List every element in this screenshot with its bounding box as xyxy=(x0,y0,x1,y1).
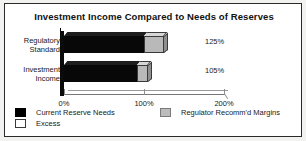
x-tick-0 xyxy=(64,89,65,95)
bar-segment-margins xyxy=(137,65,148,82)
category-label-line2: Income xyxy=(0,75,60,84)
plot-area: Regulatory Standard Investment Income 0%… xyxy=(5,28,303,100)
legend-label-excess: Excess xyxy=(36,119,60,128)
category-label-line2: Standard xyxy=(0,46,60,55)
bar-segment-margins-side xyxy=(148,62,152,82)
x-tick-label-2: 200% xyxy=(204,99,244,108)
x-tick-label-0: 0% xyxy=(44,99,84,108)
bar-segment-reserve-needs xyxy=(64,65,137,82)
x-tick-label-1: 100% xyxy=(124,99,164,108)
category-label-investment-income: Investment Income xyxy=(0,66,60,83)
bar-segment-reserve-needs xyxy=(64,36,144,53)
category-label-regulatory-standard: Regulatory Standard xyxy=(0,37,60,54)
bar-segment-margins-side xyxy=(164,33,168,53)
chart-outer-frame: Investment Income Compared to Needs of R… xyxy=(0,0,306,141)
data-label-regulatory-standard: 125% xyxy=(205,37,224,46)
chart-title: Investment Income Compared to Needs of R… xyxy=(5,11,303,22)
bar-segment-margins xyxy=(144,36,164,53)
legend-label-current-reserve-needs: Current Reserve Needs xyxy=(36,108,115,117)
chart-legend: Current Reserve Needs Excess Regulator R… xyxy=(5,108,303,134)
value-axis-line-back xyxy=(68,90,228,91)
legend-swatch-gray-icon xyxy=(160,108,171,117)
legend-label-regulator-recommd-margins: Regulator Recomm'd Margins xyxy=(181,108,280,117)
legend-swatch-white-icon xyxy=(15,119,26,128)
x-tick-2 xyxy=(224,89,225,95)
x-tick-1 xyxy=(144,89,145,95)
chart-plot-frame: Investment Income Compared to Needs of R… xyxy=(4,3,302,137)
data-label-investment-income: 105% xyxy=(205,66,224,75)
legend-swatch-black-icon xyxy=(15,108,26,117)
